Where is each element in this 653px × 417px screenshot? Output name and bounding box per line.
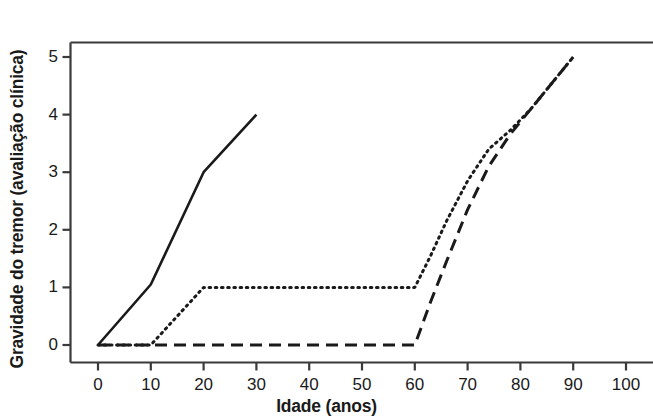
x-axis-tick-label: 0: [93, 375, 102, 395]
tremor-severity-chart: Gravidade do tremor (avaliação clínica) …: [0, 0, 653, 417]
x-axis-tick-label: 60: [405, 375, 424, 395]
series-line-solid: [98, 115, 256, 345]
series-line-dotted: [98, 57, 573, 345]
y-axis-tick-label: 5: [30, 47, 58, 67]
y-axis-tick-label: 3: [30, 162, 58, 182]
x-axis-tick-label: 10: [141, 375, 160, 395]
x-axis-tick-label: 90: [564, 375, 583, 395]
x-axis-tick-label: 70: [458, 375, 477, 395]
x-axis-tick-label: 30: [247, 375, 266, 395]
x-axis-tick-label: 50: [353, 375, 372, 395]
x-axis-tick-label: 20: [194, 375, 213, 395]
series-line-dashed: [98, 57, 573, 345]
x-axis-title: Idade (anos): [0, 396, 653, 417]
x-axis-tick-label: 40: [300, 375, 319, 395]
y-axis-tick-label: 2: [30, 220, 58, 240]
y-axis-tick-label: 4: [30, 105, 58, 125]
x-axis-tick-label: 100: [612, 375, 640, 395]
y-axis-tick-label: 0: [30, 335, 58, 355]
y-axis-tick-label: 1: [30, 277, 58, 297]
plot-area: [0, 0, 653, 417]
x-axis-tick-label: 80: [511, 375, 530, 395]
